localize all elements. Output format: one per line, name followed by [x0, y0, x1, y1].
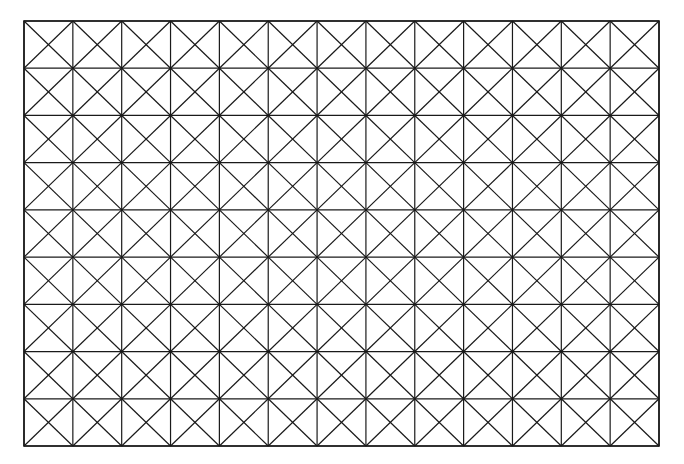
diagonal-lines: [24, 21, 659, 446]
triangulated-grid-diagram: [0, 0, 684, 464]
